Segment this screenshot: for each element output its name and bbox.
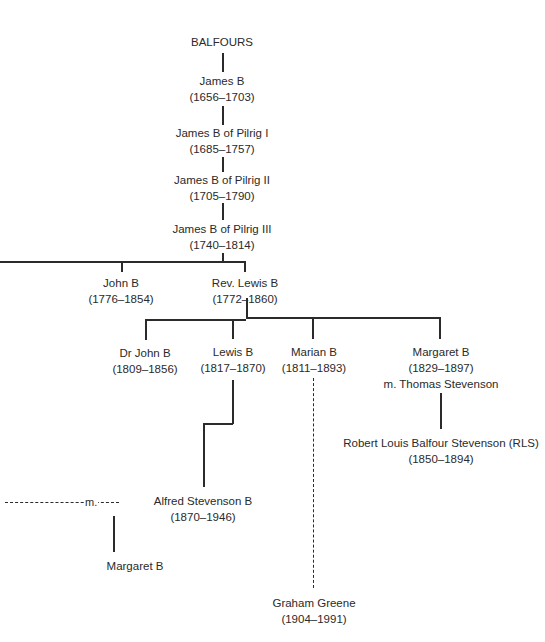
connector-line [246, 298, 248, 319]
connector-line [440, 393, 442, 429]
node-name: James B of Pilrig III [172, 221, 271, 237]
node-dates: (1656–1703) [189, 89, 254, 105]
node-name: Lewis B [200, 344, 265, 360]
marriage-label: m. [84, 496, 98, 508]
connector-line [439, 317, 441, 339]
node-dates: (1772–1860) [212, 291, 278, 307]
node-name: BALFOURS [191, 34, 253, 50]
node-dates: (1850–1894) [343, 451, 539, 467]
connector-line [145, 319, 147, 340]
node-balfours: BALFOURS [191, 34, 253, 50]
node-name: Marian B [282, 344, 346, 360]
node-dates: (1705–1790) [174, 188, 270, 204]
connector-line [222, 53, 224, 72]
node-john-b: John B (1776–1854) [88, 275, 153, 307]
node-dates: (1904–1991) [272, 611, 355, 627]
node-dates: (1870–1946) [154, 509, 252, 525]
node-spouse: m. Thomas Stevenson [384, 376, 499, 392]
connector-line [203, 423, 233, 425]
node-dates: (1776–1854) [88, 291, 153, 307]
dashed-descent-line [313, 378, 314, 588]
node-lewis-b: Lewis B (1817–1870) [200, 344, 265, 376]
node-name: Dr John B [112, 345, 177, 361]
node-dates: (1817–1870) [200, 360, 265, 376]
connector-line [113, 516, 115, 552]
node-margaret-b: Margaret B (1829–1897) m. Thomas Stevens… [384, 344, 499, 392]
node-name: James B of Pilrig I [176, 125, 269, 141]
connector-line [232, 319, 234, 339]
connector-line [312, 318, 314, 339]
node-dates: (1740–1814) [172, 237, 271, 253]
dashed-marriage-line [5, 502, 119, 503]
sibling-bar [145, 319, 246, 321]
node-dates: (1829–1897) [384, 360, 499, 376]
connector-line [222, 157, 224, 172]
node-dr-john-b: Dr John B (1809–1856) [112, 345, 177, 377]
node-margaret-b-descendant: Margaret B [107, 558, 164, 574]
sibling-bar [246, 317, 440, 319]
node-name: James B of Pilrig II [174, 172, 270, 188]
node-pilrig-2: James B of Pilrig II (1705–1790) [174, 172, 270, 204]
sibling-bar [0, 261, 245, 263]
node-dates: (1685–1757) [176, 141, 269, 157]
connector-line [244, 261, 246, 272]
node-name: Graham Greene [272, 595, 355, 611]
connector-line [121, 261, 123, 272]
node-dates: (1809–1856) [112, 361, 177, 377]
node-name: Margaret B [107, 558, 164, 574]
node-name: Alfred Stevenson B [154, 493, 252, 509]
node-pilrig-3: James B of Pilrig III (1740–1814) [172, 221, 271, 253]
node-name: Margaret B [384, 344, 499, 360]
node-name: Robert Louis Balfour Stevenson (RLS) [343, 435, 539, 451]
node-alfred-stevenson-b: Alfred Stevenson B (1870–1946) [154, 493, 252, 525]
connector-line [222, 203, 224, 220]
node-name: James B [189, 73, 254, 89]
node-dates: (1811–1893) [282, 360, 346, 376]
connector-line [222, 106, 224, 125]
node-graham-greene: Graham Greene (1904–1991) [272, 595, 355, 627]
node-marian-b: Marian B (1811–1893) [282, 344, 346, 376]
node-rev-lewis-b: Rev. Lewis B (1772–1860) [212, 275, 278, 307]
node-rls: Robert Louis Balfour Stevenson (RLS) (18… [343, 435, 539, 467]
node-name: John B [88, 275, 153, 291]
connector-line [203, 423, 205, 487]
node-james-b: James B (1656–1703) [189, 73, 254, 105]
node-name: Rev. Lewis B [212, 275, 278, 291]
node-pilrig-1: James B of Pilrig I (1685–1757) [176, 125, 269, 157]
family-tree-diagram: BALFOURS James B (1656–1703) James B of … [0, 0, 545, 642]
connector-line [232, 380, 234, 424]
